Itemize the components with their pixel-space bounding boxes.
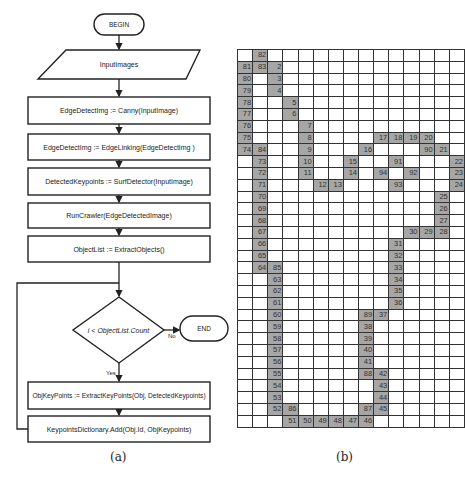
grid-cell <box>343 333 358 345</box>
grid-cell: 25 <box>434 191 449 203</box>
grid-cell <box>404 50 419 62</box>
grid-cell: 28 <box>434 226 449 238</box>
grid-cell <box>238 250 253 262</box>
begin-label: BEGIN <box>94 14 144 35</box>
grid-cell <box>268 108 283 120</box>
grid-cell <box>313 380 328 392</box>
grid-row: 7112139324 <box>238 179 465 191</box>
grid-cell <box>343 120 358 132</box>
grid-cell <box>374 344 389 356</box>
grid-cell <box>298 356 313 368</box>
grid-cell <box>419 120 434 132</box>
decision-label: i < ObjectList.Count <box>73 320 164 340</box>
grid-cell <box>298 274 313 286</box>
grid-cell <box>238 156 253 168</box>
grid-cell <box>328 309 343 321</box>
grid-cell <box>328 144 343 156</box>
grid-cell <box>389 108 404 120</box>
grid-cell: 71 <box>253 179 268 191</box>
grid-cell: 12 <box>313 179 328 191</box>
grid-cell <box>419 50 434 62</box>
grid-cell <box>389 50 404 62</box>
grid-cell <box>449 321 464 333</box>
grid-row: 558842 <box>238 368 465 380</box>
grid-cell <box>374 356 389 368</box>
grid-cell <box>298 61 313 73</box>
grid-cell <box>449 415 464 427</box>
grid-row: 721114949223 <box>238 167 465 179</box>
grid-cell <box>268 238 283 250</box>
grid-cell <box>389 97 404 109</box>
grid-cell <box>359 50 374 62</box>
grid-cell <box>404 250 419 262</box>
grid-cell: 72 <box>253 167 268 179</box>
grid-cell <box>434 262 449 274</box>
grid-cell: 46 <box>359 415 374 427</box>
grid-cell: 43 <box>374 380 389 392</box>
grid-cell: 24 <box>449 179 464 191</box>
grid-cell <box>404 297 419 309</box>
grid-cell <box>313 297 328 309</box>
grid-cell <box>434 250 449 262</box>
grid-cell <box>328 132 343 144</box>
grid-cell <box>298 250 313 262</box>
grid-cell: 13 <box>328 179 343 191</box>
grid-cell <box>404 108 419 120</box>
grid-cell: 9 <box>298 144 313 156</box>
grid-cell <box>404 262 419 274</box>
grid-cell <box>283 215 298 227</box>
grid-cell <box>313 144 328 156</box>
grid-cell: 5 <box>283 97 298 109</box>
grid-cell <box>419 156 434 168</box>
grid-cell <box>253 120 268 132</box>
grid-cell <box>313 321 328 333</box>
grid-row: 648533 <box>238 262 465 274</box>
grid-cell <box>328 73 343 85</box>
grid-cell <box>419 344 434 356</box>
grid-cell <box>253 285 268 297</box>
grid-cell <box>404 274 419 286</box>
grid-cell <box>328 262 343 274</box>
grid-cell <box>298 226 313 238</box>
grid-cell <box>283 356 298 368</box>
grid-cell <box>283 274 298 286</box>
grid-cell <box>449 108 464 120</box>
grid-cell <box>343 356 358 368</box>
grid-cell <box>449 226 464 238</box>
grid-cell <box>343 73 358 85</box>
grid-cell <box>268 179 283 191</box>
grid-cell <box>389 380 404 392</box>
grid-cell: 90 <box>419 144 434 156</box>
grid-cell: 55 <box>268 368 283 380</box>
grid-cell <box>343 97 358 109</box>
grid-cell <box>434 380 449 392</box>
grid-cell <box>313 97 328 109</box>
grid-cell <box>283 333 298 345</box>
grid-cell <box>449 297 464 309</box>
grid-cell: 38 <box>359 321 374 333</box>
grid-cell: 53 <box>268 392 283 404</box>
grid-row: 7310159122 <box>238 156 465 168</box>
grid-cell: 42 <box>374 368 389 380</box>
grid-cell <box>328 368 343 380</box>
grid-cell: 67 <box>253 226 268 238</box>
grid-cell <box>313 333 328 345</box>
grid-cell <box>298 403 313 415</box>
grid-cell <box>359 132 374 144</box>
grid-cell: 10 <box>298 156 313 168</box>
grid-cell <box>283 368 298 380</box>
grid-cell <box>238 403 253 415</box>
grid-cell: 4 <box>268 85 283 97</box>
grid-row: 785 <box>238 97 465 109</box>
grid-cell: 30 <box>404 226 419 238</box>
grid-cell <box>253 368 268 380</box>
end-label: END <box>180 316 228 341</box>
grid-row: 515049484746 <box>238 415 465 427</box>
grid-row: 5344 <box>238 392 465 404</box>
grid-cell <box>374 415 389 427</box>
grid-cell <box>449 191 464 203</box>
grid-cell <box>313 61 328 73</box>
grid-cell: 87 <box>359 403 374 415</box>
grid-cell <box>449 392 464 404</box>
grid-cell <box>313 167 328 179</box>
